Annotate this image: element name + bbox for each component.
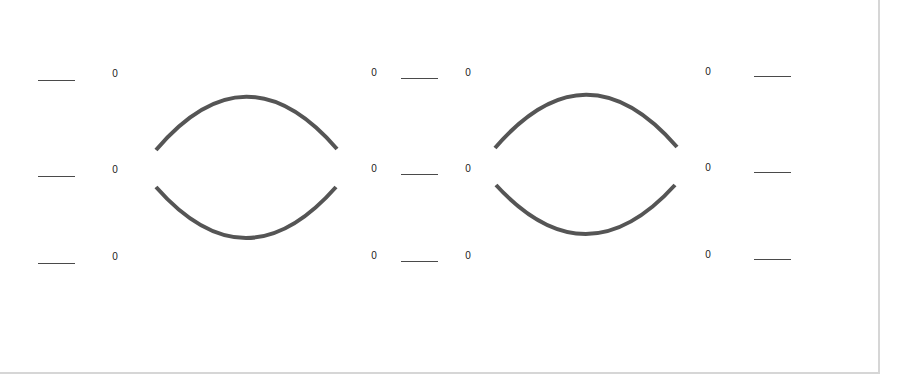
value-label: 0 — [110, 165, 120, 175]
answer-blank[interactable] — [401, 78, 438, 79]
worksheet-page: 0 0 0 0 0 0 0 0 0 0 0 0 — [0, 0, 880, 374]
answer-blank[interactable] — [401, 261, 438, 262]
left-ellipse-top-arc — [156, 97, 337, 150]
value-label: 0 — [703, 250, 713, 260]
right-ellipse-bottom-arc — [496, 185, 675, 234]
answer-blank[interactable] — [38, 263, 75, 264]
value-label: 0 — [369, 68, 379, 78]
right-ellipse-top-arc — [495, 95, 677, 148]
answer-blank[interactable] — [754, 172, 791, 173]
answer-blank[interactable] — [754, 259, 791, 260]
split-ellipse-diagram — [0, 0, 878, 372]
answer-blank[interactable] — [754, 76, 791, 77]
value-label: 0 — [463, 251, 473, 261]
value-label: 0 — [369, 251, 379, 261]
value-label: 0 — [703, 163, 713, 173]
value-label: 0 — [463, 164, 473, 174]
value-label: 0 — [369, 164, 379, 174]
left-ellipse-bottom-arc — [156, 187, 336, 238]
left-split-ellipse — [156, 97, 337, 238]
answer-blank[interactable] — [38, 80, 75, 81]
right-split-ellipse — [495, 95, 677, 234]
value-label: 0 — [703, 67, 713, 77]
answer-blank[interactable] — [38, 176, 75, 177]
value-label: 0 — [110, 252, 120, 262]
answer-blank[interactable] — [401, 174, 438, 175]
value-label: 0 — [110, 69, 120, 79]
value-label: 0 — [463, 68, 473, 78]
